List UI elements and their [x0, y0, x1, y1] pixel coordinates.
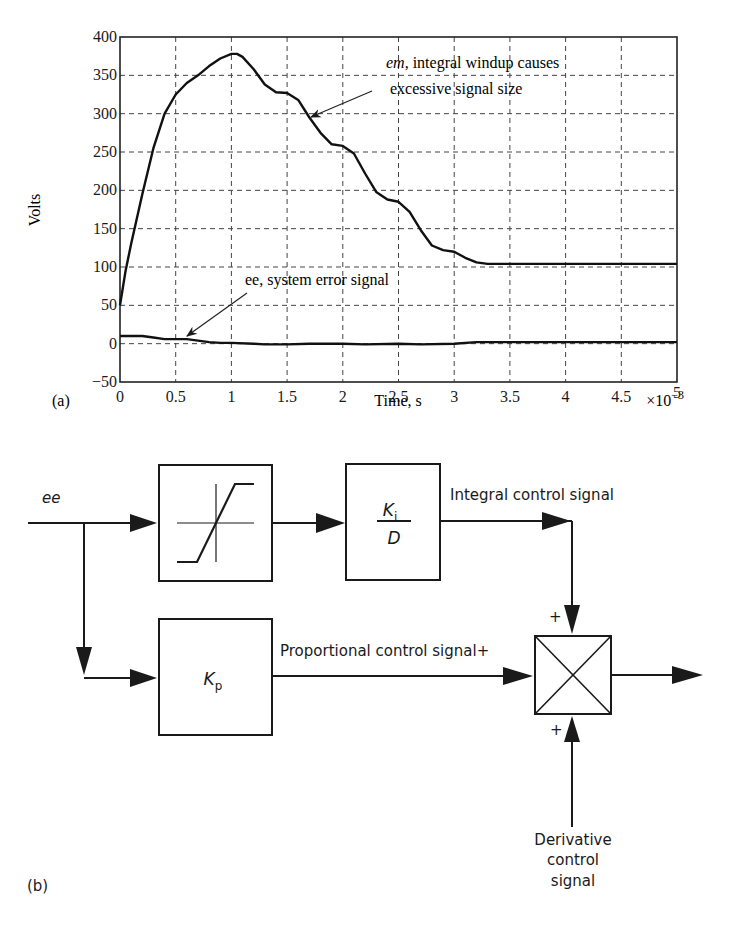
- y-tick-label: 150: [93, 220, 117, 237]
- x-tick-label: 3.5: [500, 388, 520, 405]
- em-annotation-line1: em, integral windup causes: [386, 54, 559, 72]
- y-tick-label: 0: [109, 335, 117, 352]
- em-annotation-line2: excessive signal size: [390, 80, 522, 98]
- proportional-signal-label: Proportional control signal+: [280, 642, 489, 660]
- derivative-label-line3: signal: [551, 872, 595, 890]
- y-tick-label: 350: [93, 66, 117, 83]
- proportional-block: [159, 619, 272, 735]
- derivative-label-line1: Derivative: [534, 831, 611, 849]
- arrow-to-integral: [316, 513, 345, 533]
- derivative-up-arrow: [564, 716, 580, 742]
- arrow-to-kp: [130, 669, 157, 687]
- y-tick-label: 300: [93, 105, 117, 122]
- x-tick-label: 0.5: [166, 388, 186, 405]
- ee-annotation-arrow: [187, 293, 247, 336]
- branch-arrow-down: [76, 647, 92, 675]
- input-label-ee: ee: [42, 489, 60, 507]
- summer-sign-top: +: [549, 608, 562, 626]
- panel-b-label: (b): [27, 877, 48, 895]
- x-tick-label: 4: [562, 388, 570, 405]
- integral-signal-label: Integral control signal: [450, 486, 614, 504]
- chart-panel-a: 400350300250200150100500−50 00.511.522.5…: [26, 28, 684, 410]
- x-tick-label: 3: [450, 388, 458, 405]
- kp-label: Kp: [204, 669, 223, 693]
- arrow-to-limiter: [130, 514, 157, 532]
- ee-annotation: ee, system error signal: [245, 271, 390, 289]
- y-tick-label: 400: [93, 28, 117, 45]
- x-tick-label: 1.5: [277, 388, 297, 405]
- y-tick-label: 50: [101, 296, 117, 313]
- y-tick-label: 200: [93, 181, 117, 198]
- integral-down-arrow: [564, 605, 580, 634]
- proportional-signal-arrow: [503, 667, 533, 685]
- derivative-label-line2: control: [547, 851, 599, 869]
- panel-a-label: (a): [52, 392, 70, 410]
- x-axis-label: Time, s: [374, 392, 421, 409]
- x-axis-scale-note: ×10−3: [646, 388, 684, 409]
- figure-canvas: 400350300250200150100500−50 00.511.522.5…: [0, 0, 733, 934]
- block-diagram-panel-b: ee Ki D Integral control signal + Kp Pro: [27, 464, 703, 895]
- em-annotation-arrow: [311, 91, 372, 117]
- y-axis-label: Volts: [26, 194, 43, 227]
- x-tick-label: 4.5: [611, 388, 631, 405]
- y-tick-label: 250: [93, 143, 117, 160]
- y-axis-ticks: 400350300250200150100500−50: [92, 28, 117, 390]
- x-tick-label: 2: [339, 388, 347, 405]
- y-tick-label: −50: [92, 373, 117, 390]
- x-tick-label: 0: [116, 388, 124, 405]
- y-tick-label: 100: [93, 258, 117, 275]
- x-tick-label: 1: [227, 388, 235, 405]
- ki-denominator: D: [387, 528, 400, 548]
- integral-signal-arrow: [542, 512, 571, 530]
- output-arrow: [672, 666, 703, 684]
- saturation-icon: [177, 484, 254, 562]
- summer-sign-bottom: +: [550, 721, 563, 739]
